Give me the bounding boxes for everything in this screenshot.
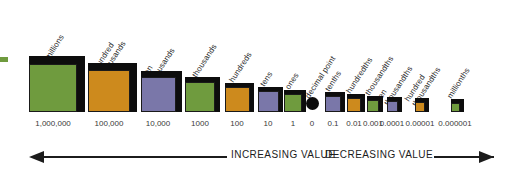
decreasing-arrow-head <box>479 151 494 163</box>
label-line-1: hundreds <box>227 50 253 84</box>
label-tens: tens <box>258 70 274 88</box>
decreasing-value-caption: DECREASING VALUE <box>325 149 433 160</box>
cube-ten-thousands <box>141 71 182 112</box>
cube-side-face <box>379 96 383 112</box>
cube-thousandths <box>367 96 383 112</box>
value-decimal-point: 0 <box>310 119 314 128</box>
cube-side-face <box>341 92 345 112</box>
cube-hundreds <box>225 83 254 112</box>
cube-tenths <box>325 92 345 112</box>
cube-hundred-thousandths <box>415 98 429 112</box>
cube-side-face <box>130 63 137 112</box>
value-tens: 10 <box>264 119 273 128</box>
label-hundreds: hundreds <box>227 50 253 84</box>
cube-front-face <box>347 98 361 112</box>
value-ten-thousands: 10,000 <box>146 119 170 128</box>
decimal-point-dot <box>306 97 319 110</box>
label-line-1: tens <box>258 70 274 88</box>
cube-side-face <box>425 98 429 112</box>
label-millionths: millionths <box>445 66 471 100</box>
cube-tens <box>258 87 283 112</box>
cube-side-face <box>279 87 283 112</box>
value-ones: 1 <box>291 119 295 128</box>
cube-thousands <box>185 77 220 112</box>
label-line-1: thousands <box>190 42 218 79</box>
increasing-value-caption: INCREASING VALUE <box>231 149 335 160</box>
value-hundred-thousandths: 0.00001 <box>406 119 435 128</box>
value-hundred-thousands: 100,000 <box>95 119 124 128</box>
cube-millionths <box>451 99 464 112</box>
increasing-arrow-head <box>29 151 44 163</box>
cube-front-face <box>225 87 250 112</box>
cube-side-face <box>215 77 220 112</box>
cube-front-face <box>367 100 379 112</box>
cube-front-face <box>258 91 279 112</box>
cube-ones <box>284 90 306 112</box>
value-tenths: 0.1 <box>327 119 338 128</box>
cropped-cube-sliver <box>0 57 8 62</box>
cube-front-face <box>415 102 425 112</box>
label-ones: ones <box>283 71 300 91</box>
cube-millions <box>29 56 85 112</box>
label-line-1: millionths <box>445 66 471 100</box>
place-value-chart: millionshundredthousandstenthousandsthou… <box>0 0 522 172</box>
label-thousands: thousands <box>190 42 218 79</box>
value-hundreds: 100 <box>230 119 243 128</box>
cube-front-face <box>185 82 215 112</box>
value-millions: 1,000,000 <box>35 119 71 128</box>
value-ten-thousandths: 0.0001 <box>380 119 404 128</box>
value-direction-legend: INCREASING VALUE DECREASING VALUE <box>0 145 522 169</box>
label-line-1: ones <box>283 71 300 91</box>
cube-hundredths <box>347 94 365 112</box>
cube-hundred-thousands <box>88 63 137 112</box>
increasing-arrow-line <box>43 156 227 158</box>
cube-front-face <box>325 96 341 112</box>
cube-front-face <box>284 94 302 112</box>
cube-front-face <box>88 70 130 112</box>
cube-front-face <box>451 103 460 112</box>
cube-side-face <box>361 94 365 112</box>
cube-side-face <box>398 97 402 112</box>
cube-side-face <box>77 56 85 112</box>
cube-side-face <box>176 71 182 112</box>
cube-side-face <box>250 83 254 112</box>
value-hundredths: 0.01 <box>346 119 362 128</box>
cube-front-face <box>387 101 398 112</box>
cube-side-face <box>460 99 464 112</box>
value-thousands: 1000 <box>191 119 209 128</box>
cube-front-face <box>141 77 176 112</box>
cube-ten-thousandths <box>387 97 402 112</box>
value-millionths: 0.000001 <box>438 119 471 128</box>
cube-front-face <box>29 64 77 112</box>
